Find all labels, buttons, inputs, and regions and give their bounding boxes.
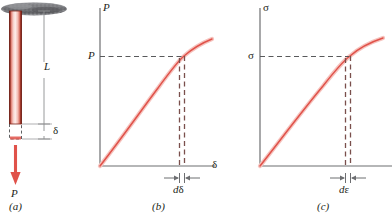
- load-label: P: [11, 187, 18, 199]
- y-tick-label-c: σ: [248, 49, 254, 61]
- panel-c-graphic: [233, 0, 392, 215]
- panel-b-graphic: [78, 0, 233, 215]
- stress-strain-curve-icon: [260, 38, 383, 166]
- panel-a-caption: (a): [9, 200, 22, 212]
- panel-b-load-elongation-chart: P δ P dδ (b): [78, 0, 233, 215]
- prismatic-bar-icon: [10, 11, 22, 124]
- dimension-line-icon-elongation: [22, 124, 52, 139]
- x-axis-label-b: δ: [212, 158, 217, 170]
- y-axis-label-c: σ: [263, 1, 269, 13]
- dashed-outline-icon: [10, 124, 22, 140]
- increment-var-c: ε: [345, 183, 350, 195]
- panel-c-caption: (c): [317, 200, 329, 212]
- panel-b-caption: (b): [152, 200, 165, 212]
- panel-a-bar-diagram: L δ P (a): [0, 0, 78, 215]
- y-axis-label-b: P: [103, 1, 110, 13]
- length-label: L: [44, 60, 50, 72]
- stress-strain-curve-halo: [260, 38, 383, 166]
- panel-a-graphic: [0, 0, 78, 215]
- load-elongation-curve-halo: [100, 39, 212, 166]
- figure-root: L δ P (a): [0, 0, 392, 215]
- y-tick-label-b: P: [88, 49, 95, 61]
- panel-c-stress-strain-chart: σ σ dε (c): [233, 0, 392, 215]
- inward-arrows-icon-b: [164, 173, 200, 183]
- down-arrow-icon: [10, 145, 20, 185]
- elongation-label: δ: [53, 124, 58, 136]
- inward-arrows-icon-c: [330, 173, 366, 183]
- increment-var-b: δ: [179, 183, 184, 195]
